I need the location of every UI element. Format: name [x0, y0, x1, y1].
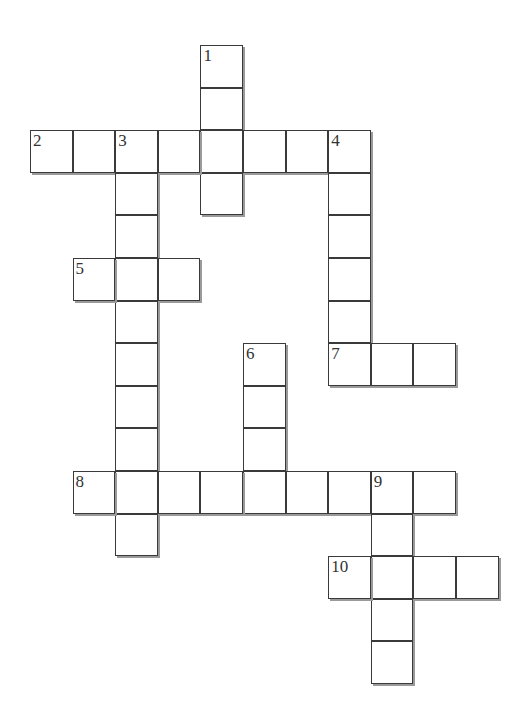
cell-input[interactable] — [201, 174, 242, 215]
crossword-cell[interactable] — [328, 215, 371, 258]
crossword-cell[interactable] — [115, 258, 158, 301]
crossword-cell[interactable]: 3 — [115, 130, 158, 173]
cell-input[interactable] — [116, 259, 157, 300]
cell-input[interactable] — [457, 557, 498, 598]
crossword-cell[interactable] — [115, 343, 158, 386]
cell-input[interactable] — [244, 472, 285, 513]
crossword-cell[interactable] — [200, 471, 243, 514]
crossword-cell[interactable] — [115, 428, 158, 471]
crossword-cell[interactable] — [158, 130, 201, 173]
crossword-cell[interactable] — [115, 514, 158, 557]
cell-input[interactable] — [116, 216, 157, 257]
cell-input[interactable] — [372, 515, 413, 556]
cell-input[interactable] — [372, 642, 413, 683]
crossword-cell[interactable] — [158, 258, 201, 301]
cell-input[interactable] — [159, 131, 200, 172]
clue-number: 3 — [118, 132, 127, 150]
cell-input[interactable] — [329, 259, 370, 300]
crossword-cell[interactable]: 10 — [328, 556, 371, 599]
cell-input[interactable] — [116, 302, 157, 343]
crossword-cell[interactable] — [371, 343, 414, 386]
crossword-cell[interactable]: 7 — [328, 343, 371, 386]
cell-input[interactable] — [116, 387, 157, 428]
cell-input[interactable] — [414, 344, 455, 385]
cell-input[interactable] — [159, 259, 200, 300]
crossword-cell[interactable] — [328, 301, 371, 344]
crossword-cell[interactable] — [243, 471, 286, 514]
crossword-cell[interactable]: 2 — [30, 130, 73, 173]
cell-input[interactable] — [116, 429, 157, 470]
crossword-cell[interactable] — [371, 514, 414, 557]
cell-input[interactable] — [414, 472, 455, 513]
cell-input[interactable] — [329, 174, 370, 215]
crossword-cell[interactable]: 1 — [200, 45, 243, 88]
cell-input[interactable] — [287, 131, 328, 172]
crossword-cell[interactable] — [413, 343, 456, 386]
crossword-cell[interactable] — [158, 471, 201, 514]
cell-input[interactable] — [244, 429, 285, 470]
cell-input[interactable] — [201, 472, 242, 513]
crossword-cell[interactable] — [371, 641, 414, 684]
clue-number: 8 — [76, 473, 85, 491]
crossword-cell[interactable] — [115, 471, 158, 514]
crossword-cell[interactable] — [243, 386, 286, 429]
cell-input[interactable] — [116, 344, 157, 385]
crossword-cell[interactable] — [73, 130, 116, 173]
cell-input[interactable] — [244, 387, 285, 428]
crossword-cell[interactable]: 5 — [73, 258, 116, 301]
cell-input[interactable] — [372, 600, 413, 641]
crossword-cell[interactable]: 9 — [371, 471, 414, 514]
crossword-grid: 12347568910 — [0, 0, 528, 726]
crossword-cell[interactable] — [413, 471, 456, 514]
crossword-cell[interactable] — [328, 471, 371, 514]
clue-number: 6 — [246, 345, 255, 363]
crossword-cell[interactable]: 6 — [243, 343, 286, 386]
crossword-cell[interactable] — [328, 173, 371, 216]
cell-input[interactable] — [74, 131, 115, 172]
clue-number: 4 — [331, 132, 340, 150]
cell-input[interactable] — [329, 302, 370, 343]
crossword-cell[interactable] — [328, 258, 371, 301]
clue-number: 5 — [76, 260, 85, 278]
cell-input[interactable] — [372, 344, 413, 385]
crossword-cell[interactable] — [115, 301, 158, 344]
cell-input[interactable] — [116, 515, 157, 556]
clue-number: 7 — [331, 345, 340, 363]
cell-input[interactable] — [159, 472, 200, 513]
clue-number: 1 — [203, 47, 212, 65]
crossword-cell[interactable] — [200, 173, 243, 216]
cell-input[interactable] — [244, 131, 285, 172]
crossword-cell[interactable] — [200, 88, 243, 131]
crossword-cell[interactable] — [115, 215, 158, 258]
clue-number: 10 — [331, 558, 348, 576]
cell-input[interactable] — [116, 472, 157, 513]
clue-number: 9 — [374, 473, 383, 491]
crossword-cell[interactable] — [115, 386, 158, 429]
cell-input[interactable] — [329, 216, 370, 257]
crossword-cell[interactable]: 4 — [328, 130, 371, 173]
cell-input[interactable] — [287, 472, 328, 513]
crossword-cell[interactable] — [286, 471, 329, 514]
cell-input[interactable] — [414, 557, 455, 598]
crossword-cell[interactable] — [371, 599, 414, 642]
crossword-cell[interactable] — [200, 130, 243, 173]
crossword-cell[interactable] — [243, 130, 286, 173]
crossword-cell[interactable] — [243, 428, 286, 471]
clue-number: 2 — [33, 132, 42, 150]
crossword-cell[interactable] — [413, 556, 456, 599]
crossword-cell[interactable] — [371, 556, 414, 599]
cell-input[interactable] — [372, 557, 413, 598]
cell-input[interactable] — [329, 472, 370, 513]
cell-input[interactable] — [201, 89, 242, 130]
cell-input[interactable] — [116, 174, 157, 215]
cell-input[interactable] — [201, 131, 242, 172]
crossword-cell[interactable]: 8 — [73, 471, 116, 514]
crossword-cell[interactable] — [286, 130, 329, 173]
crossword-cell[interactable] — [456, 556, 499, 599]
crossword-cell[interactable] — [115, 173, 158, 216]
